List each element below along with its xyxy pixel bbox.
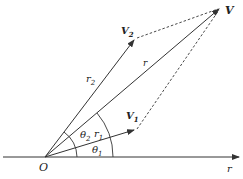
vector-label-r1: r1 <box>94 128 103 142</box>
axis-label-r: r <box>227 163 233 174</box>
vector-label-r2: r2 <box>86 73 96 87</box>
dashed-v2-to-v <box>137 9 218 38</box>
vector-label-r: r <box>143 58 148 68</box>
angle-label-theta1: θ1 <box>92 144 103 158</box>
vector-diagram: O r V V2 V1 r2 r r1 θ2 θ1 <box>0 0 243 179</box>
origin-label: O <box>39 161 48 174</box>
point-label-v: V <box>225 4 235 17</box>
dashed-v1-to-v <box>137 10 219 129</box>
angle-label-theta2: θ2 <box>80 129 91 143</box>
point-label-v2: V2 <box>121 25 134 39</box>
point-label-v1: V1 <box>126 110 139 124</box>
